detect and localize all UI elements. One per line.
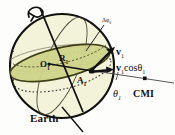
angle-label: θ1 (113, 89, 121, 101)
center-point-symbol: O (40, 59, 47, 69)
delta-phi-subscript: 0 (109, 21, 111, 25)
radius-subscript: 1 (66, 59, 69, 65)
velocity-projection-label: v1cosθ1 (116, 63, 145, 75)
velocity-projection-cos: cosθ (124, 62, 142, 73)
velocity-projection-cos-subscript: 1 (142, 68, 145, 75)
radius-label: R1 (59, 54, 68, 65)
earth-label: Earth (30, 113, 59, 124)
rotation-direction-arrow (28, 7, 43, 17)
delta-phi-label: Δφ0 (102, 17, 111, 26)
earth-cmi-diagram: Δφ0 O1 R1 A1 v1 v1cosθ1 θ1 CMI Earth (0, 0, 175, 135)
surface-point-subscript: 1 (84, 81, 87, 87)
velocity-label: v1 (116, 47, 124, 59)
center-point-label: O1 (40, 60, 50, 71)
angle-subscript: 1 (118, 94, 121, 101)
velocity-subscript: 1 (121, 52, 124, 59)
cmi-label: CMI (133, 89, 154, 99)
surface-point-label: A1 (77, 76, 86, 87)
diagram-canvas (0, 0, 175, 135)
cmi-line-marker (143, 77, 147, 81)
center-point-subscript: 1 (47, 65, 50, 71)
